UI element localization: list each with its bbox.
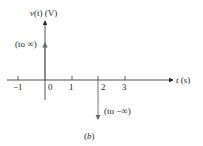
- tick-label-3: 3: [122, 83, 127, 92]
- tick-label-1: 1: [69, 83, 74, 92]
- xlabel-unit: (s): [179, 75, 191, 85]
- annotation-to-infinity: (to ∞): [15, 40, 37, 49]
- figure-caption: (b): [84, 132, 95, 141]
- caption-paren-close: ): [92, 131, 95, 141]
- tick-label-0: 0: [48, 83, 53, 92]
- x-axis-label: t (s): [176, 76, 190, 85]
- tick-label-2: 2: [101, 83, 106, 92]
- chart-canvas: [0, 0, 203, 146]
- ylabel-arg: (t): [34, 8, 43, 18]
- annotation-to-neg-infinity: (to −∞): [104, 107, 131, 116]
- tick-label-m1: −1: [13, 83, 23, 92]
- ylabel-unit: (V): [43, 8, 58, 18]
- y-axis-label: v(t) (V): [30, 9, 57, 18]
